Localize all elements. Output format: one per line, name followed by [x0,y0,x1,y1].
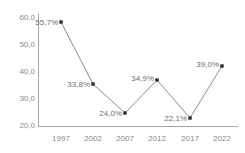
y-tick-label-40: 40,0 [19,67,35,76]
x-tick-label-2002: 2002 [84,134,102,143]
chart-canvas: 60,0 50,0 40,0 30,0 20,0 55,7% 33,8% 24,… [0,0,245,153]
data-point-2017 [188,116,191,119]
data-point-1997 [59,20,62,23]
line-chart: 60,0 50,0 40,0 30,0 20,0 55,7% 33,8% 24,… [0,0,245,153]
data-label-2022: 39,0% [196,60,219,69]
data-point-2002 [91,82,94,85]
data-label-2002: 33,8% [67,80,90,89]
y-tick-label-50: 50,0 [19,40,35,49]
y-tick-label-60: 60,0 [19,13,35,22]
data-label-1997: 55,7% [35,18,58,27]
x-tick-label-2012: 2012 [148,134,166,143]
data-point-2007 [123,111,126,114]
x-tick-label-1997: 1997 [52,134,70,143]
data-label-2017: 22,1% [164,114,187,123]
y-tick-label-30: 30,0 [19,94,35,103]
data-label-2007: 24,0% [99,109,122,118]
data-point-2012 [155,78,158,81]
data-point-2022 [220,64,223,67]
x-tick-label-2007: 2007 [116,134,134,143]
y-tick-label-20: 20,0 [19,121,35,130]
series-line [61,22,222,118]
data-label-2012: 34,9% [131,74,154,83]
x-tick-label-2017: 2017 [181,134,199,143]
x-tick-label-2022: 2022 [213,134,231,143]
